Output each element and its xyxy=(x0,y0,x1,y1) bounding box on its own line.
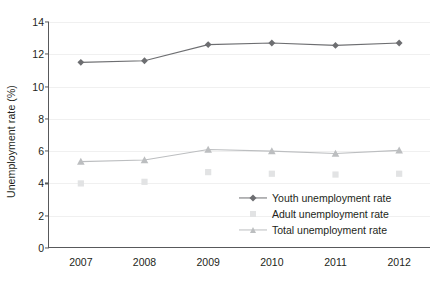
data-point-marker xyxy=(77,59,84,66)
y-axis-tick-label: 10 xyxy=(32,81,44,93)
chart-legend: Youth unemployment rate Adult unemployme… xyxy=(238,191,391,237)
x-axis-tick-label: 2007 xyxy=(69,256,92,268)
legend-key-youth-icon xyxy=(238,191,268,205)
legend-item-adult: Adult unemployment rate xyxy=(238,207,391,221)
unemployment-rate-line-chart: Unemployment rate (%) 024681012142007200… xyxy=(0,0,441,283)
legend-label-adult: Adult unemployment rate xyxy=(272,208,389,220)
y-axis-tick-label: 6 xyxy=(38,145,44,157)
data-point-marker xyxy=(205,41,212,48)
x-axis-tick-label: 2010 xyxy=(260,256,283,268)
legend-item-youth: Youth unemployment rate xyxy=(238,191,391,205)
y-axis-tick-label: 0 xyxy=(38,242,44,254)
legend-marker xyxy=(250,227,256,233)
legend-key-total-icon xyxy=(238,223,268,237)
data-point-marker xyxy=(396,171,402,177)
data-point-marker xyxy=(141,57,148,64)
legend-marker xyxy=(250,211,256,217)
data-point-marker xyxy=(78,180,84,186)
y-axis-tick-label: 4 xyxy=(38,177,44,189)
data-point-marker xyxy=(332,171,338,177)
y-axis-label: Unemployment rate (%) xyxy=(0,0,22,283)
data-point-marker xyxy=(332,42,339,49)
legend-label-total: Total unemployment rate xyxy=(272,224,387,236)
y-axis-tick-label: 12 xyxy=(32,48,44,60)
data-point-marker xyxy=(205,169,211,175)
y-axis-tick-label: 2 xyxy=(38,210,44,222)
x-axis-tick-label: 2012 xyxy=(387,256,410,268)
legend-marker xyxy=(249,194,256,201)
data-point-marker xyxy=(141,179,147,185)
data-point-marker xyxy=(268,40,275,47)
y-axis-tick-label: 14 xyxy=(32,16,44,28)
series-line xyxy=(81,43,399,62)
legend-key-adult-icon xyxy=(238,207,268,221)
x-axis-tick-label: 2008 xyxy=(133,256,156,268)
x-axis-tick-label: 2009 xyxy=(196,256,219,268)
data-point-marker xyxy=(269,171,275,177)
data-point-marker xyxy=(396,40,403,47)
legend-label-youth: Youth unemployment rate xyxy=(272,192,391,204)
y-axis-tick-label: 8 xyxy=(38,113,44,125)
legend-item-total: Total unemployment rate xyxy=(238,223,391,237)
series-line xyxy=(81,150,399,162)
x-axis-tick-label: 2011 xyxy=(324,256,347,268)
